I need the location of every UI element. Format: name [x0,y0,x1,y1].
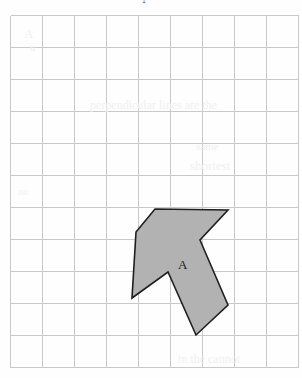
shape-polygon-a[interactable] [132,209,228,335]
grid-figure [0,0,302,378]
grid-lines [11,16,299,368]
shape-label-a: A [178,258,187,271]
worksheet-page: ↓ A Auperpendicular lines are thesamesho… [0,0,302,378]
